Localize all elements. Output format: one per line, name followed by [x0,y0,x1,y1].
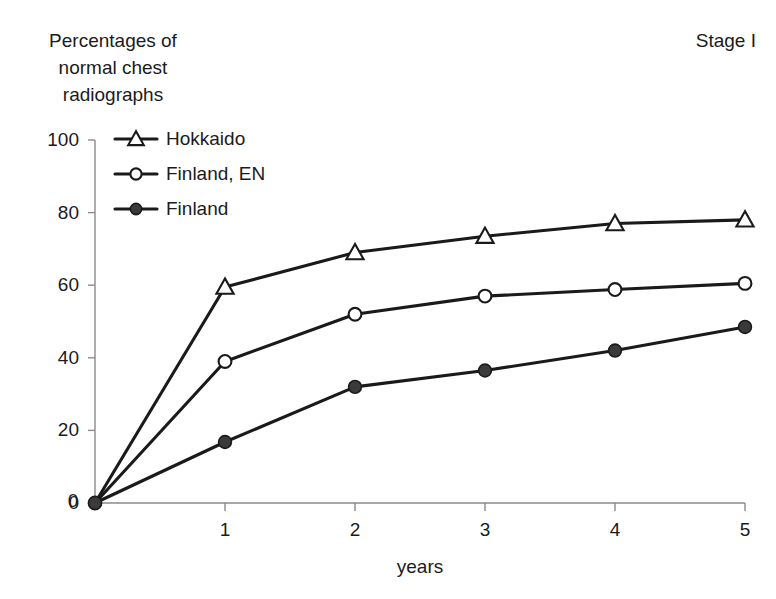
plot-area [0,0,776,599]
marker-open-circle [609,283,622,296]
chart-legend: HokkaidoFinland, ENFinland [113,128,265,220]
legend-entry: Hokkaido [113,128,265,150]
x-axis-title: years [397,556,443,578]
series-markers [216,211,753,293]
legend-swatch [113,129,159,149]
marker-filled-circle [609,344,622,357]
marker-open-circle [479,290,492,303]
marker-filled-circle [349,380,362,393]
legend-label: Finland [166,198,228,220]
x-tick-label: 3 [480,519,491,541]
y-tick-label: 60 [58,274,79,296]
x-tick-label: 1 [220,519,231,541]
marker-open-circle [130,168,141,179]
legend-entry: Finland [113,198,265,220]
marker-filled-circle [219,436,232,449]
y-tick-label: 20 [58,419,79,441]
y-tick-label: 100 [47,129,79,151]
series-line [95,220,745,503]
series-hokkaido [95,220,745,503]
legend-entry: Finland, EN [113,163,265,185]
marker-open-circle [739,277,752,290]
marker-open-circle [219,355,232,368]
legend-label: Hokkaido [166,128,245,150]
marker-open-circle [349,308,362,321]
x-tick-label: 2 [350,519,361,541]
x-tick-label: 5 [740,519,751,541]
y-tick-label: 40 [58,347,79,369]
x-tick-label: 0 [68,490,79,512]
chart-figure: Percentages of normal chest radiographs … [0,0,776,599]
series-markers [219,277,752,368]
legend-swatch [113,199,159,219]
legend-swatch [113,164,159,184]
series-finland [95,327,745,503]
series-finland-en [95,283,745,503]
series-line [95,327,745,503]
x-tick-label: 4 [610,519,621,541]
marker-filled-circle [130,203,141,214]
marker-filled-circle [479,364,492,377]
y-tick-label: 80 [58,202,79,224]
series-line [95,283,745,503]
marker-filled-circle [88,496,101,509]
marker-filled-circle [739,321,752,334]
legend-label: Finland, EN [166,163,265,185]
